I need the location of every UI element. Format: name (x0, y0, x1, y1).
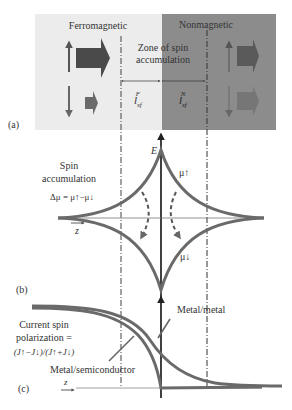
spin-accumulation-formula: Δμ = μ↑−μ↓ (50, 192, 94, 202)
current-spin-polarization-line1: Current spin (19, 319, 69, 330)
ferromagnetic-title: Ferromagnetic (69, 20, 128, 31)
ferromagnetic-region (35, 14, 162, 130)
spin-accumulation-title-line2: accumulation (42, 173, 96, 184)
dashed-relaxation-arrow-right (171, 192, 180, 238)
current-spin-polarization-line2: polarization = (16, 332, 72, 343)
zone-label-line2: accumulation (136, 54, 190, 65)
panel-b: E z μ↑ μ↓ Spin accumulation Δμ = μ↑−μ↓ (… (16, 134, 264, 300)
metal-metal-pointer (158, 319, 170, 338)
current-spin-polarization-formula: (J↑−J↓)/(J↑+J↓) (14, 347, 75, 357)
spin-accumulation-figure: Ferromagnetic Nonmagnetic Zone of spin a… (0, 0, 292, 410)
mu-up-label: μ↑ (179, 167, 189, 178)
spin-accumulation-title-line1: Spin (60, 160, 78, 171)
metal-metal-label: Metal/metal (177, 304, 226, 315)
zone-label-line1: Zone of spin (138, 42, 189, 53)
metal-semiconductor-label: Metal/semiconductor (50, 364, 136, 375)
panel-a: Ferromagnetic Nonmagnetic Zone of spin a… (8, 14, 276, 131)
panel-a-label: (a) (8, 119, 19, 131)
mu-down-label: μ↓ (180, 251, 190, 262)
z-label-b: z (74, 225, 79, 236)
panel-b-label: (b) (16, 284, 28, 296)
dashed-relaxation-arrow-left (141, 192, 149, 238)
nonmagnetic-region (162, 14, 276, 130)
panel-c: z Metal/metal Metal/semiconductor Curren… (14, 297, 282, 398)
nonmagnetic-title: Nonmagnetic (179, 19, 233, 30)
z-label-c: z (63, 377, 68, 387)
energy-axis-label: E (150, 145, 157, 156)
panel-c-label: (c) (18, 383, 29, 395)
